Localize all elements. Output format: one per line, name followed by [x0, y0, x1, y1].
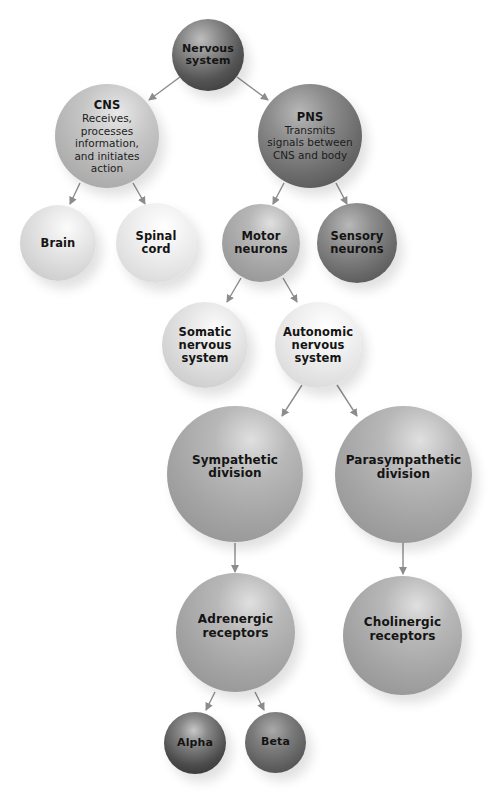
node-adrenergic-receptors: Adrenergic receptors — [176, 573, 295, 692]
node-parasympathetic-division: Parasympathetic division — [335, 406, 472, 543]
arrow-adrenergic-to-alpha — [206, 692, 215, 710]
node-cns: CNS Receives, processes information, and… — [55, 84, 159, 188]
node-motor-neurons-title: Motor neurons — [234, 230, 287, 256]
nervous-system-diagram: Nervous system CNS Receives, processes i… — [0, 0, 493, 792]
node-sympathetic-title: Sympathetic division — [192, 454, 278, 481]
arrow-autonomic-to-parasympathetic — [337, 385, 357, 416]
node-nervous-system-title: Nervous system — [182, 43, 234, 68]
node-somatic-title: Somatic nervous system — [179, 326, 232, 365]
node-beta-title: Beta — [261, 736, 290, 749]
node-beta: Beta — [245, 712, 306, 773]
node-cns-description: Receives, processes information, and ini… — [74, 112, 139, 175]
node-nervous-system: Nervous system — [172, 19, 244, 91]
node-pns: PNS Transmits signals between CNS and bo… — [258, 84, 362, 188]
arrow-pns-to-motor — [273, 183, 284, 204]
arrow-nervous-to-cns — [149, 77, 180, 100]
arrow-cns-to-spinal — [133, 183, 145, 204]
arrow-cns-to-brain — [70, 183, 80, 204]
node-autonomic-nervous-system: Autonomic nervous system — [275, 302, 361, 388]
arrow-adrenergic-to-beta — [255, 692, 264, 710]
node-cns-title: CNS — [94, 99, 121, 112]
node-brain-title: Brain — [41, 237, 76, 250]
node-autonomic-title: Autonomic nervous system — [283, 326, 353, 365]
node-pns-description: Transmits signals between CNS and body — [267, 124, 352, 162]
node-somatic-nervous-system: Somatic nervous system — [162, 302, 248, 388]
node-sympathetic-division: Sympathetic division — [167, 406, 303, 542]
node-cholinergic-receptors: Cholinergic receptors — [343, 576, 462, 695]
node-sensory-neurons-title: Sensory neurons — [330, 230, 383, 256]
node-spinal-cord-title: Spinal cord — [136, 230, 177, 256]
node-alpha: Alpha — [164, 712, 226, 774]
node-cholinergic-title: Cholinergic receptors — [364, 616, 441, 643]
node-spinal-cord: Spinal cord — [116, 203, 196, 283]
node-brain: Brain — [20, 205, 96, 281]
arrow-motor-to-autonomic — [283, 278, 297, 302]
arrow-motor-to-somatic — [227, 278, 241, 302]
node-motor-neurons: Motor neurons — [222, 204, 300, 282]
arrow-pns-to-sensory — [336, 183, 347, 204]
node-adrenergic-title: Adrenergic receptors — [198, 613, 273, 640]
node-alpha-title: Alpha — [177, 737, 213, 750]
node-parasympathetic-title: Parasympathetic division — [346, 454, 462, 481]
arrow-nervous-to-pns — [237, 77, 268, 100]
node-pns-title: PNS — [297, 111, 324, 124]
node-sensory-neurons: Sensory neurons — [317, 203, 397, 283]
arrow-autonomic-to-sympathetic — [282, 385, 302, 416]
